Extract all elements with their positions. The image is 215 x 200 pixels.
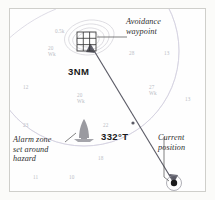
annotation-current-position: Current position bbox=[158, 133, 185, 152]
leader-line-alarm-zone bbox=[65, 133, 76, 142]
annotation-alarm-zone: Alarm zone set around hazard bbox=[13, 135, 52, 164]
sounding-label: 22 bbox=[103, 123, 108, 129]
chart-figure: 0.5k 20 Wk 12 23 20 Wk 28 13 27 Wk 13 22… bbox=[0, 0, 215, 200]
sounding-label: 18 bbox=[98, 156, 103, 162]
sounding-label: 13 bbox=[164, 51, 169, 57]
sounding-label: 11 bbox=[33, 175, 38, 181]
sounding-label: 20 Wk bbox=[48, 46, 56, 57]
distance-label: 3NM bbox=[68, 66, 89, 77]
annotation-avoidance-waypoint: Avoidance waypoint bbox=[126, 17, 161, 36]
sounding-label: 10 bbox=[69, 175, 74, 181]
sounding-label: 13 bbox=[185, 97, 190, 103]
sounding-label: 27 Wk bbox=[149, 85, 157, 96]
sounding-label: 0.5k bbox=[55, 29, 64, 35]
chart-canvas bbox=[10, 9, 206, 192]
sounding-label: 20 Wk bbox=[77, 93, 85, 104]
chart-panel: 0.5k 20 Wk 12 23 20 Wk 28 13 27 Wk 13 22… bbox=[9, 8, 206, 192]
sounding-label: 23 bbox=[23, 123, 28, 129]
wreck-hazard-icon bbox=[74, 119, 94, 142]
bearing-label: 332°T bbox=[101, 131, 128, 142]
leader-line-current-position-tail bbox=[164, 177, 169, 181]
sounding-label: 12 bbox=[23, 85, 28, 91]
sounding-label: 28 bbox=[129, 51, 134, 57]
secondary-arc bbox=[10, 9, 56, 45]
